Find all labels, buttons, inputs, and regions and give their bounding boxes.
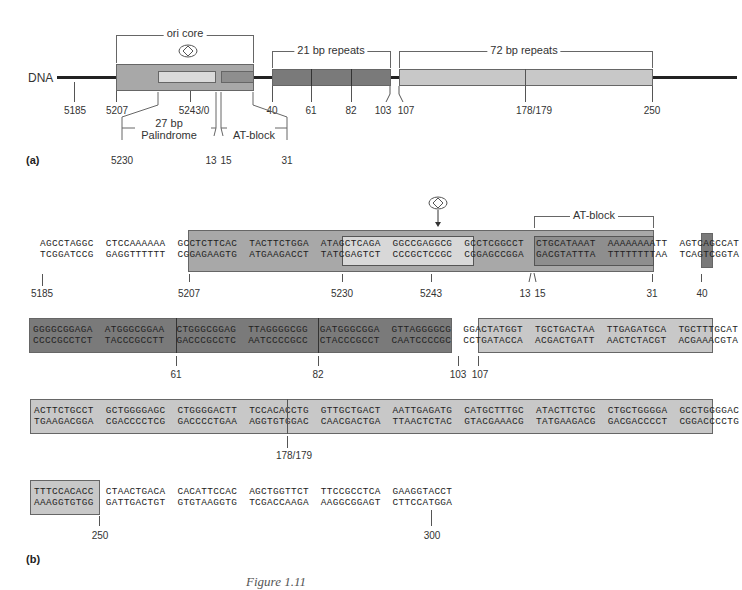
palindrome-label: Palindrome bbox=[141, 129, 197, 141]
pos-5185: 5185 bbox=[64, 105, 86, 116]
pos-15-a: 15 bbox=[220, 155, 231, 166]
tick-b-31 bbox=[652, 274, 653, 282]
ori-bracket-right bbox=[253, 35, 254, 63]
sequence-row-3-top: ACTTCTGCCT GCTGGGGAGC CTGGGGACTT TCCACAC… bbox=[34, 405, 739, 416]
diamond-in-oval-icon bbox=[428, 196, 448, 210]
pos-31-a: 31 bbox=[281, 155, 292, 166]
repeats-21bp-region bbox=[272, 69, 391, 86]
pos-b-5185: 5185 bbox=[31, 288, 53, 299]
pos-b-178-179: 178/179 bbox=[276, 450, 312, 461]
dna-label: DNA bbox=[28, 71, 53, 85]
tick-61 bbox=[311, 86, 312, 102]
sequence-row-2-bottom: CCCCGCCTCT TACCCGCCTT GACCCGCCTC AATCCCC… bbox=[33, 335, 738, 346]
pos-178-179: 178/179 bbox=[516, 105, 552, 116]
at-block-label-a: AT-block bbox=[233, 129, 275, 141]
tick-b-5243 bbox=[431, 274, 432, 282]
tick-b-107 bbox=[478, 356, 479, 366]
panel-a-label: (a) bbox=[26, 154, 39, 166]
tick-b-103 bbox=[458, 356, 459, 366]
panel-b-label: (b) bbox=[26, 553, 40, 565]
pos-250: 250 bbox=[644, 105, 661, 116]
at-block-label-b: AT-block bbox=[570, 209, 618, 221]
tick-5185 bbox=[74, 82, 75, 102]
repeat21-divider-1 bbox=[311, 69, 312, 86]
tick-178-179 bbox=[525, 86, 526, 102]
dna-backbone-right bbox=[652, 76, 737, 79]
pos-b-5243: 5243 bbox=[420, 288, 442, 299]
tick-250 bbox=[652, 86, 653, 102]
sequence-row-3-bottom: TGAAGACGGA CGACCCCTCG GACCCCTGAA AGGTGTG… bbox=[34, 416, 739, 427]
tick-b-82 bbox=[318, 356, 319, 366]
sequence-row-2-top: GGGGCGGAGA ATGGGCGGAA CTGGGCGGAG TTAGGGG… bbox=[33, 324, 738, 335]
row2-div-82 bbox=[318, 318, 319, 353]
figure-caption: Figure 1.11 bbox=[246, 574, 306, 590]
repeats-72bp-label: 72 bp repeats bbox=[487, 44, 560, 56]
ori-core-label: ori core bbox=[164, 27, 207, 39]
repeats-72bp-region bbox=[399, 69, 653, 86]
tick-b-178-179 bbox=[287, 436, 288, 448]
ori-bracket-left bbox=[116, 35, 117, 63]
palindrome-region bbox=[158, 71, 216, 83]
pos-b-13: 13 bbox=[519, 288, 530, 299]
sub-brackets bbox=[115, 90, 295, 150]
row2-div-61 bbox=[176, 318, 177, 353]
repeat72-divider bbox=[525, 69, 526, 86]
pos-b-250: 250 bbox=[92, 530, 109, 541]
dna-backbone-left bbox=[57, 76, 117, 79]
tick-b-300 bbox=[431, 510, 432, 526]
pos-5230-a: 5230 bbox=[111, 155, 133, 166]
pos-82: 82 bbox=[345, 105, 356, 116]
palindrome-size-label: 27 bp bbox=[155, 117, 183, 129]
row3-div-178 bbox=[287, 399, 288, 434]
tick-b-250 bbox=[99, 516, 100, 526]
pos-b-15: 15 bbox=[534, 288, 545, 299]
pos-107: 107 bbox=[398, 105, 415, 116]
at-bracket-left-b bbox=[534, 216, 535, 228]
pos-b-107: 107 bbox=[472, 369, 489, 380]
pos-b-103: 103 bbox=[450, 369, 467, 380]
pos-103: 103 bbox=[375, 105, 392, 116]
pos-b-5207: 5207 bbox=[178, 288, 200, 299]
tick-b-5207 bbox=[189, 274, 190, 282]
tick-b-13-15 bbox=[522, 273, 542, 285]
pos-b-61: 61 bbox=[170, 369, 181, 380]
pos-13-a: 13 bbox=[205, 155, 216, 166]
at-block-region bbox=[221, 71, 254, 83]
r72-bracket-right bbox=[652, 51, 653, 68]
r21-bracket-left bbox=[272, 51, 273, 68]
at-bracket-right-b bbox=[653, 216, 654, 228]
tick-82 bbox=[351, 86, 352, 102]
arrow-down-icon bbox=[433, 210, 443, 228]
pos-b-300: 300 bbox=[424, 530, 441, 541]
sequence-row-1-bottom: TCGGATCCG GAGGTTTTTT CGGAGAAGTG ATGAAGAC… bbox=[40, 249, 739, 260]
pos-b-5230: 5230 bbox=[331, 288, 353, 299]
diamond-in-oval-icon bbox=[178, 44, 198, 58]
pos-b-31: 31 bbox=[646, 288, 657, 299]
tick-b-40 bbox=[701, 274, 702, 282]
sequence-row-1-top: AGCCTAGGC CTCCAAAAAA GCCTCTTCAC TACTTCTG… bbox=[40, 238, 739, 249]
pos-b-40: 40 bbox=[696, 288, 707, 299]
pos-b-82: 82 bbox=[312, 369, 323, 380]
sequence-row-4-bottom: AAAGGTGTGG GATTGACTGT GTGTAAGGTG TCGACCA… bbox=[34, 497, 452, 508]
r72-bracket-left bbox=[399, 51, 400, 68]
tick-b-61 bbox=[176, 356, 177, 366]
sequence-row-4-top: TTTCCACACC CTAACTGACA CACATTCCAC AGCTGGT… bbox=[34, 486, 452, 497]
repeats-21bp-label: 21 bp repeats bbox=[294, 44, 367, 56]
tick-103-107 bbox=[378, 86, 408, 104]
tick-b-5230 bbox=[342, 274, 343, 282]
dna-backbone-mid1 bbox=[253, 76, 273, 79]
tick-b-5185 bbox=[42, 274, 43, 286]
pos-61: 61 bbox=[305, 105, 316, 116]
repeat21-divider-2 bbox=[351, 69, 352, 86]
r21-bracket-right bbox=[390, 51, 391, 68]
